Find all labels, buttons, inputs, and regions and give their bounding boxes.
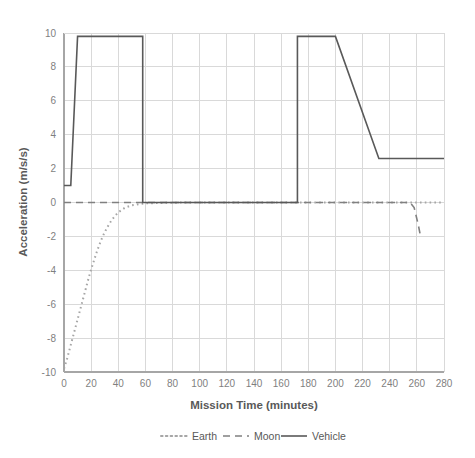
x-axis-title: Mission Time (minutes) xyxy=(190,399,318,411)
x-tick-label: 60 xyxy=(140,378,152,389)
y-tick-label: -10 xyxy=(42,367,57,378)
y-tick-label: -2 xyxy=(47,231,56,242)
legend-label: Vehicle xyxy=(312,430,346,442)
x-tick-label: 260 xyxy=(409,378,426,389)
x-tick-label: 120 xyxy=(219,378,236,389)
x-tick-label: 80 xyxy=(167,378,179,389)
x-tick-label: 220 xyxy=(354,378,371,389)
legend-item-moon[interactable]: Moon xyxy=(223,430,280,442)
x-tick-label: 140 xyxy=(246,378,263,389)
x-tick-label: 180 xyxy=(300,378,317,389)
y-axis-title: Acceleration (m/s/s) xyxy=(17,147,29,256)
acceleration-chart: 020406080100120140160180200220240260280 … xyxy=(0,0,475,458)
x-tick-label: 160 xyxy=(273,378,290,389)
x-tick-label: 0 xyxy=(61,378,67,389)
x-tick-label: 100 xyxy=(191,378,208,389)
chart-canvas: 020406080100120140160180200220240260280 … xyxy=(0,0,475,458)
x-tick-label: 280 xyxy=(436,378,453,389)
x-tick-label: 40 xyxy=(113,378,125,389)
legend-label: Earth xyxy=(192,430,217,442)
chart-legend: EarthMoonVehicle xyxy=(161,430,346,442)
x-tick-label: 20 xyxy=(86,378,98,389)
y-tick-label: 10 xyxy=(45,28,57,39)
y-tick-label: -4 xyxy=(47,265,56,276)
y-tick-label: 4 xyxy=(50,129,56,140)
legend-item-earth[interactable]: Earth xyxy=(161,430,217,442)
x-tick-label: 200 xyxy=(327,378,344,389)
y-axis-tick-labels: -10-8-6-4-20246810 xyxy=(42,28,57,378)
x-tick-label: 240 xyxy=(381,378,398,389)
y-tick-label: -6 xyxy=(47,299,56,310)
y-tick-label: 6 xyxy=(50,95,56,106)
legend-item-vehicle[interactable]: Vehicle xyxy=(281,430,346,442)
y-tick-label: 2 xyxy=(50,163,56,174)
y-tick-label: 0 xyxy=(50,197,56,208)
x-axis-tick-labels: 020406080100120140160180200220240260280 xyxy=(61,378,453,389)
y-tick-label: 8 xyxy=(50,61,56,72)
y-tick-label: -8 xyxy=(47,333,56,344)
legend-label: Moon xyxy=(254,430,280,442)
